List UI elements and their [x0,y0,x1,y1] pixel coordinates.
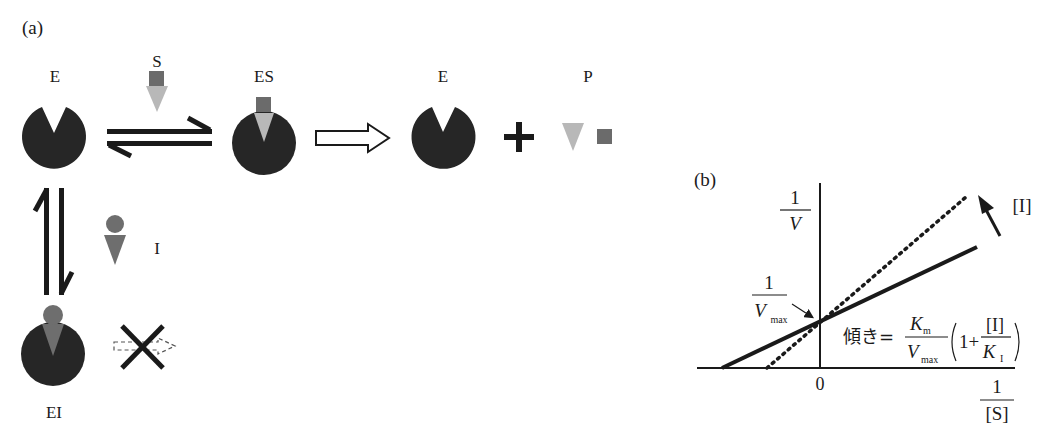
slope-vmax-sub: max [921,354,938,365]
intercept-label-sub: max [770,314,787,325]
slope-i: [I] [986,315,1004,335]
label-es: ES [254,67,274,86]
vertical-equilibrium-arrow-icon [35,188,72,295]
slope-vmax: V [907,341,921,362]
slope-ki: K [982,341,997,362]
label-ei: EI [46,403,62,422]
y-axis-label-num: 1 [790,187,800,208]
y-axis-label-den: V [789,213,803,234]
slope-formula: 傾き= K m V max 1+ [I] K I [843,313,1019,365]
label-e-product: E [438,67,448,86]
es-substrate-square-icon [256,97,271,112]
product-triangle-icon [562,123,584,151]
slope-ki-sub: I [1000,353,1003,364]
enzyme-e-free-icon [412,107,476,169]
enzyme-e-icon [22,107,86,169]
ei-inhibitor-head-icon [43,305,63,325]
label-i: I [154,239,160,258]
product-square-icon [597,129,612,144]
x-axis-label-den: [S] [985,403,1008,424]
label-p: P [583,67,592,86]
reaction-arrow-icon [316,124,389,152]
slope-one-plus: 1+ [959,331,979,352]
intercept-label-num: 1 [764,272,774,293]
diagram-canvas: (a) E S ES E P I EI [0,0,1044,442]
inhibitor-head-icon [106,215,124,233]
substrate-triangle-icon [146,86,168,112]
panel-a-label: (a) [22,17,43,39]
inhibitor-triangle-icon [104,235,126,265]
x-axis-label-num: 1 [992,376,1002,397]
intercept-label-v: V [754,300,768,321]
blocked-reaction-icon [114,326,175,368]
slope-prefix: 傾き= [843,326,894,347]
increasing-inhibitor-arrow-icon [978,195,994,214]
arrow-label-i: [I] [1013,195,1032,216]
panel-b-label: (b) [694,169,716,191]
substrate-square-icon [149,71,164,86]
origin-label: 0 [816,374,825,394]
intercept-pointer-icon [792,304,812,317]
slope-km: K [909,313,924,334]
plus-icon [504,122,534,152]
label-s: S [152,52,161,71]
label-e: E [50,67,60,86]
equilibrium-arrow-icon [107,118,212,156]
slope-km-sub: m [923,325,931,336]
